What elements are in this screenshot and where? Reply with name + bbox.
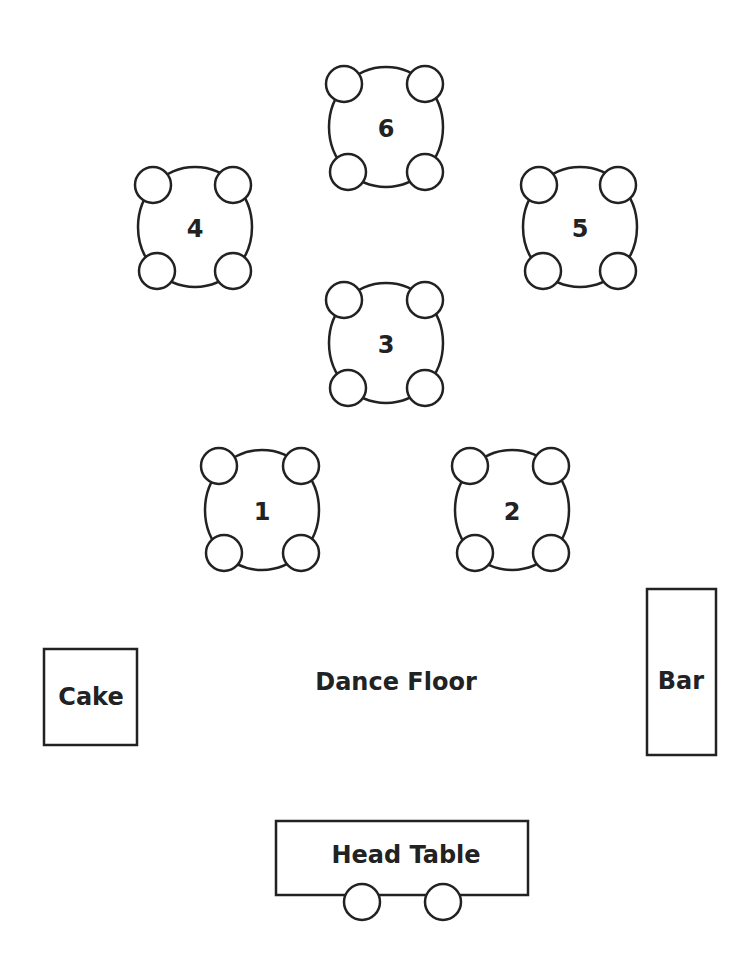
chair-icon	[407, 154, 443, 190]
chair-icon	[206, 535, 242, 571]
cake-table: Cake	[44, 649, 137, 745]
chair-icon	[407, 66, 443, 102]
chair-icon	[533, 535, 569, 571]
table-6: 6	[326, 66, 443, 190]
bar-label: Bar	[658, 667, 704, 695]
chair-icon	[407, 282, 443, 318]
chair-icon	[215, 253, 251, 289]
chair-icon	[533, 448, 569, 484]
table-6-label: 6	[378, 115, 395, 143]
chair-icon	[326, 282, 362, 318]
chair-icon	[600, 167, 636, 203]
table-5: 5	[521, 167, 637, 289]
chair-icon	[201, 448, 237, 484]
dance-floor-label: Dance Floor	[315, 668, 477, 696]
chair-icon	[407, 370, 443, 406]
seating-diagram: 6 4 5 3 1	[0, 0, 755, 969]
chair-icon	[330, 370, 366, 406]
table-1-label: 1	[254, 498, 271, 526]
chair-icon	[135, 167, 171, 203]
table-4: 4	[135, 167, 252, 289]
chair-icon	[283, 448, 319, 484]
table-5-label: 5	[572, 215, 589, 243]
bar-area: Bar	[647, 589, 716, 755]
chair-icon	[452, 448, 488, 484]
chair-icon	[457, 535, 493, 571]
table-3: 3	[326, 282, 443, 406]
table-1: 1	[201, 448, 319, 571]
chair-icon	[215, 167, 251, 203]
table-2-label: 2	[504, 498, 521, 526]
cake-label: Cake	[58, 683, 123, 711]
head-table: Head Table	[276, 821, 528, 920]
chair-icon	[326, 66, 362, 102]
chair-icon	[330, 154, 366, 190]
chair-icon	[344, 884, 380, 920]
chair-icon	[600, 253, 636, 289]
chair-icon	[521, 167, 557, 203]
table-3-label: 3	[378, 331, 395, 359]
table-2: 2	[452, 448, 569, 571]
chair-icon	[139, 253, 175, 289]
chair-icon	[425, 884, 461, 920]
chair-icon	[525, 253, 561, 289]
chair-icon	[283, 535, 319, 571]
table-4-label: 4	[187, 215, 204, 243]
head-table-label: Head Table	[331, 841, 480, 869]
